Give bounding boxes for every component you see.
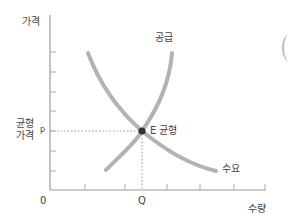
equilibrium-point — [138, 127, 145, 134]
origin-label: 0 — [40, 196, 46, 206]
equilibrium-price-label-line2: 가격 — [16, 131, 34, 141]
supply-curve — [106, 53, 172, 170]
equilibrium-price-label-line1: 균형 — [16, 119, 34, 129]
price-tick-label: p — [40, 126, 45, 134]
supply-label: 공급 — [155, 33, 173, 43]
equilibrium-label: E 균형 — [150, 126, 178, 136]
supply-demand-chart — [0, 0, 288, 224]
x-axis-label: 수량 — [248, 204, 266, 214]
y-ticks — [50, 52, 56, 171]
x-ticks — [85, 184, 265, 190]
demand-label: 수요 — [222, 164, 240, 174]
quantity-tick-label: Q — [138, 196, 146, 206]
y-axis-label: 가격 — [22, 17, 40, 27]
